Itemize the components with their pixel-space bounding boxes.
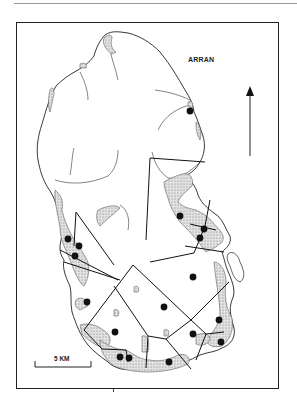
site-point bbox=[166, 359, 173, 366]
valley-line bbox=[152, 152, 200, 178]
island-label: ARRAN bbox=[188, 56, 214, 63]
scale-label: 5 KM bbox=[54, 355, 70, 362]
site-point bbox=[112, 329, 119, 336]
arran-map bbox=[0, 0, 297, 402]
site-point bbox=[161, 304, 168, 311]
site-point bbox=[201, 226, 208, 233]
site-point bbox=[190, 274, 197, 281]
site-point bbox=[65, 236, 72, 243]
site-point bbox=[190, 331, 197, 338]
site-point bbox=[126, 355, 133, 362]
site-point bbox=[84, 299, 91, 306]
north-arrow-icon bbox=[246, 86, 254, 156]
site-point bbox=[117, 354, 124, 361]
site-point bbox=[76, 243, 83, 250]
valley-line bbox=[80, 72, 88, 100]
valley-line bbox=[155, 90, 190, 100]
site-point bbox=[218, 339, 225, 346]
valley-line bbox=[70, 148, 74, 175]
holy-isle bbox=[227, 252, 244, 282]
frame-tick bbox=[113, 389, 114, 392]
valley-line bbox=[55, 150, 118, 183]
valley-line bbox=[158, 105, 190, 130]
valley-line bbox=[120, 205, 129, 230]
stippled-lowland-areas bbox=[49, 35, 233, 372]
site-point bbox=[187, 108, 194, 115]
site-point bbox=[72, 253, 79, 260]
valley-line bbox=[110, 50, 118, 80]
site-point bbox=[177, 213, 184, 220]
coastline bbox=[37, 32, 234, 371]
site-point bbox=[197, 235, 204, 242]
site-point bbox=[216, 317, 223, 324]
